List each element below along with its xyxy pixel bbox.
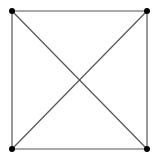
node-bottom-right bbox=[144, 146, 150, 152]
graph-diagram bbox=[0, 0, 156, 158]
node-bottom-left bbox=[9, 146, 15, 152]
node-top-left bbox=[9, 8, 15, 14]
node-top-right bbox=[144, 8, 150, 14]
